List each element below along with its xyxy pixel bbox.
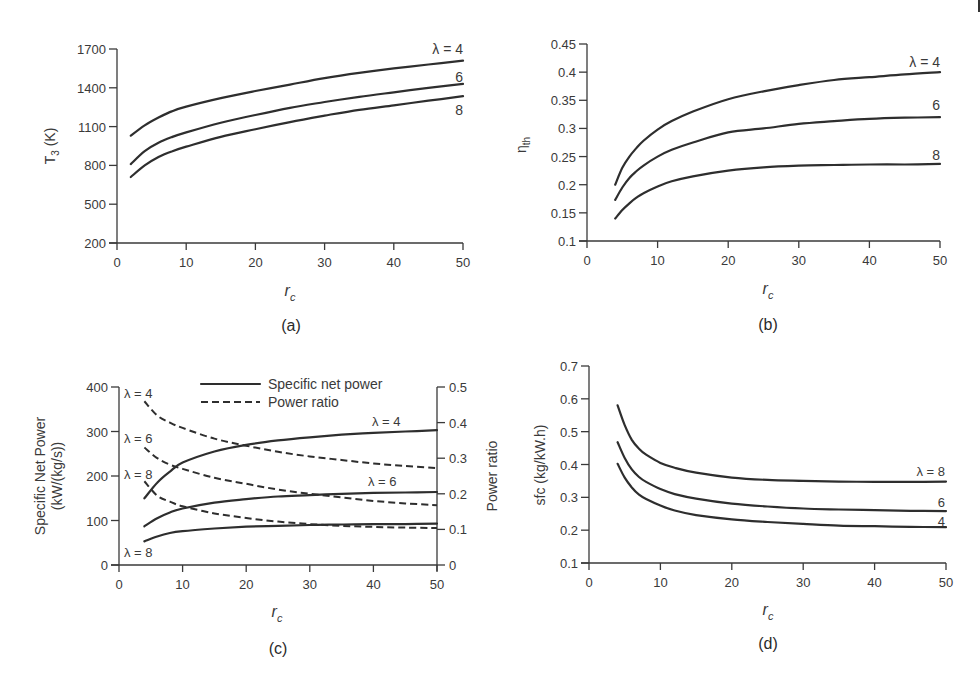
panel-d-ylabel: sfc (kg/kW.h) — [532, 425, 548, 506]
y-tick-label: 0.35 — [551, 93, 576, 108]
y-tick-label: 0.7 — [560, 359, 578, 374]
figure: 01020304050200500800110014001700 T3 (K) … — [0, 0, 980, 683]
x-tick-label: 50 — [430, 577, 444, 592]
x-tick-label: 10 — [653, 575, 667, 590]
panel-a-curve-label-6: 6 — [455, 69, 463, 85]
series-line — [615, 117, 940, 200]
y-tick-label: 0.2 — [560, 523, 578, 538]
series-line — [618, 405, 946, 482]
y-tick-label: 0.1 — [558, 234, 576, 249]
panel-c-left-label-l4: λ = 4 — [124, 386, 153, 401]
x-tick-label: 10 — [179, 255, 193, 270]
panel-a-caption: (a) — [281, 317, 301, 334]
y-tick-label: 1700 — [77, 42, 106, 57]
panel-d-curve-label-8: λ = 8 — [916, 464, 945, 479]
panel-a-curve-label-8: 8 — [455, 102, 463, 118]
y-tick-label: 0.25 — [551, 150, 576, 165]
panel-a-ylabel: T3 (K) — [42, 128, 61, 165]
y2-tick-label: 0.5 — [449, 380, 467, 395]
panel-b-curve-label-8: 8 — [932, 147, 940, 163]
series-line — [618, 442, 946, 511]
panel-b-xlabel: rc — [763, 280, 774, 301]
y-tick-label: 100 — [86, 514, 108, 529]
panel-d-curve-label-4: 4 — [938, 514, 945, 529]
y2-tick-label: 0 — [449, 558, 456, 573]
series-line — [144, 524, 437, 542]
panel-d-caption: (d) — [758, 635, 778, 652]
y2-tick-label: 0.1 — [449, 522, 467, 537]
legend-dashed-label: Power ratio — [268, 394, 339, 410]
y-tick-label: 0.4 — [558, 65, 576, 80]
series-line — [615, 164, 940, 219]
panel-c-right-label-l6: λ = 6 — [368, 474, 397, 489]
x-tick-label: 10 — [175, 577, 189, 592]
y-tick-label: 1100 — [78, 120, 106, 135]
panel-a-plot: 01020304050200500800110014001700 — [77, 42, 470, 270]
panel-c-y2label: Power ratio — [484, 440, 500, 511]
y-tick-label: 0.15 — [551, 206, 576, 221]
panel-b-curve-label-4: λ = 4 — [909, 54, 940, 70]
y-tick-label: 0 — [101, 558, 108, 573]
x-tick-label: 20 — [248, 255, 262, 270]
panel-b-plot: 010203040500.10.150.20.250.30.350.40.45 — [551, 37, 948, 268]
panel-c-plot: 01020304050010020030040000.10.20.30.40.5 — [86, 380, 467, 592]
panel-d-chart: 010203040500.10.20.30.40.50.60.7 sfc (kg… — [532, 359, 953, 652]
series-line — [615, 72, 940, 185]
panel-c-xlabel: rc — [272, 603, 283, 624]
panel-b-caption: (b) — [758, 316, 778, 333]
panel-c-ylabel-line2: (kW/(kg/s)) — [49, 442, 65, 510]
y2-tick-label: 0.4 — [449, 416, 467, 431]
x-tick-label: 40 — [867, 575, 881, 590]
y-tick-label: 0.4 — [560, 458, 578, 473]
y-tick-label: 800 — [84, 158, 106, 173]
y-tick-label: 0.3 — [558, 121, 576, 136]
y-tick-label: 0.3 — [560, 490, 578, 505]
panel-b-ylabel: ηth — [513, 137, 532, 153]
panel-a-curve-label-4: λ = 4 — [432, 41, 463, 57]
series-line — [131, 84, 463, 164]
panel-b-curve-label-6: 6 — [932, 97, 940, 113]
panel-b-chart: 010203040500.10.150.20.250.30.350.40.45 … — [513, 37, 947, 333]
panel-d-xlabel: rc — [763, 601, 774, 622]
y-tick-label: 0.1 — [560, 556, 578, 571]
panel-d-plot: 010203040500.10.20.30.40.50.60.7 — [560, 359, 953, 590]
x-tick-label: 30 — [792, 253, 806, 268]
panel-c-chart: 01020304050010020030040000.10.20.30.40.5… — [32, 376, 500, 657]
panel-d-curve-label-6: 6 — [938, 495, 945, 510]
panel-a-chart: 01020304050200500800110014001700 T3 (K) … — [42, 41, 470, 334]
y-tick-label: 0.2 — [558, 178, 576, 193]
x-tick-label: 0 — [583, 253, 590, 268]
y-tick-label: 0.5 — [560, 425, 578, 440]
series-line — [131, 61, 463, 136]
legend-solid-label: Specific net power — [268, 376, 383, 392]
y-tick-label: 0.45 — [551, 37, 576, 52]
panel-c-legend: Specific net power Power ratio — [201, 376, 383, 410]
y-tick-label: 500 — [84, 197, 106, 212]
y-tick-label: 200 — [84, 236, 106, 251]
panel-a-xlabel: rc — [285, 282, 296, 303]
x-tick-label: 40 — [366, 577, 380, 592]
y2-tick-label: 0.2 — [449, 487, 467, 502]
series-line — [144, 401, 437, 468]
x-tick-label: 30 — [796, 575, 810, 590]
panel-c-left-label-l6: λ = 6 — [124, 431, 153, 446]
x-tick-label: 30 — [303, 577, 317, 592]
series-line — [144, 492, 437, 526]
y2-tick-label: 0.3 — [449, 451, 467, 466]
y-tick-label: 300 — [86, 425, 108, 440]
x-tick-label: 20 — [725, 575, 739, 590]
x-tick-label: 50 — [939, 575, 953, 590]
x-tick-label: 30 — [317, 255, 331, 270]
x-tick-label: 50 — [456, 255, 470, 270]
panel-c-left-label-l8-dashed: λ = 8 — [124, 467, 153, 482]
x-tick-label: 40 — [862, 253, 876, 268]
x-tick-label: 0 — [113, 255, 120, 270]
x-tick-label: 50 — [933, 253, 947, 268]
panel-c-left-label-l8-solid: λ = 8 — [124, 545, 153, 560]
x-tick-label: 0 — [115, 577, 122, 592]
y-tick-label: 400 — [86, 380, 108, 395]
y-tick-label: 200 — [86, 469, 108, 484]
series-line — [618, 464, 946, 527]
panel-c-caption: (c) — [269, 640, 288, 657]
x-tick-label: 40 — [387, 255, 401, 270]
